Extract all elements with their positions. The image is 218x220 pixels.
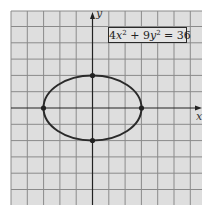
x-axis-label: x (196, 110, 202, 123)
vertex-top (90, 73, 95, 78)
eq-rhs: = 36 (161, 29, 191, 42)
vertex-left (41, 105, 46, 110)
eq-coef-y: 9 (143, 29, 150, 42)
y-axis-label: y (96, 7, 102, 20)
eq-coef-x: 4 (109, 29, 116, 42)
vertex-bottom (90, 138, 95, 143)
equation-label: 4x2 + 9y2 = 36 (108, 27, 187, 43)
vertex-right (139, 105, 144, 110)
eq-plus: + (127, 29, 143, 42)
